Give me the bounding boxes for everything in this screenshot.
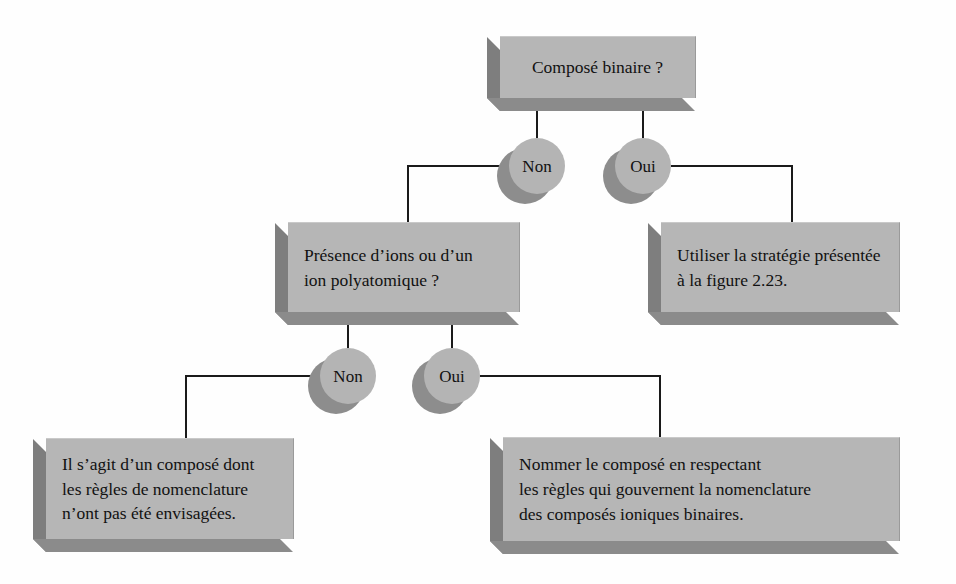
flowchart-canvas: Composé binaire ? Non Oui Présence d’ion… [0,0,956,584]
node-composés-ioniques-binaires[interactable]: Nommer le composé en respectant les règl… [503,437,900,541]
node-présence-ions[interactable]: Présence d’ions ou d’un ion polyatomique… [288,222,520,312]
disc-face: Non [320,348,376,404]
node-composé-binaire[interactable]: Composé binaire ? [500,36,696,98]
decision-label: Oui [630,158,656,175]
node-utiliser-stratégie-2-23[interactable]: Utiliser la stratégie présentée à la fig… [661,222,900,312]
decision-label: Oui [439,368,465,385]
edge-oui-to-strategy [671,166,792,222]
decision-root-oui[interactable]: Oui [615,138,671,194]
node-label: Il s’agit d’un composé dont les règles d… [46,452,293,527]
disc-face: Oui [615,138,671,194]
edge-oui-to-binary-ionic [480,376,660,437]
disc-face: Oui [424,348,480,404]
edge-non-to-not-covered [186,376,320,438]
decision-ions-non[interactable]: Non [320,348,376,404]
decision-root-non[interactable]: Non [509,138,565,194]
node-label: Présence d’ions ou d’un ion polyatomique… [288,243,519,293]
decision-label: Non [522,158,551,175]
decision-ions-oui[interactable]: Oui [424,348,480,404]
node-label: Utiliser la stratégie présentée à la fig… [661,243,899,293]
decision-label: Non [333,368,362,385]
edge-non-to-ions-question [408,166,509,222]
node-règles-non-envisagées[interactable]: Il s’agit d’un composé dont les règles d… [46,438,294,539]
disc-face: Non [509,138,565,194]
node-label: Composé binaire ? [500,55,695,80]
node-label: Nommer le composé en respectant les règl… [503,452,899,527]
